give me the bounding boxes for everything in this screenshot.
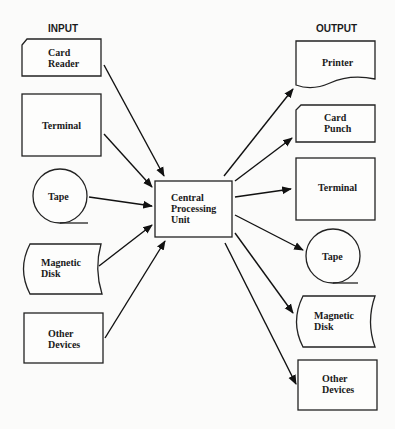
output-other-devices: Other Devices (298, 360, 377, 410)
input-other-devices: Other Devices (24, 313, 103, 363)
svg-text:Central: Central (171, 192, 204, 203)
svg-text:Punch: Punch (324, 123, 352, 134)
arrow-card-reader-to-cpu (104, 65, 164, 176)
output-card-punch: Card Punch (296, 105, 375, 142)
output-arrows (224, 89, 303, 384)
svg-text:Reader: Reader (48, 58, 80, 69)
svg-text:Tape: Tape (322, 251, 343, 262)
svg-text:Devices: Devices (48, 339, 80, 350)
arrow-disk-to-cpu (99, 225, 152, 266)
input-terminal: Terminal (22, 94, 101, 156)
svg-text:Magnetic: Magnetic (314, 310, 355, 321)
svg-text:Unit: Unit (171, 214, 191, 225)
input-card-reader: Card Reader (22, 39, 101, 76)
input-magnetic-disk: Magnetic Disk (24, 244, 103, 294)
svg-text:Printer: Printer (322, 57, 354, 68)
input-tape: Tape (33, 169, 88, 223)
central-processing-unit: Central Processing Unit (155, 181, 232, 237)
svg-text:Card: Card (324, 112, 347, 123)
svg-text:Card: Card (48, 47, 71, 58)
svg-text:Other: Other (48, 328, 74, 339)
arrow-cpu-to-terminal (235, 189, 291, 197)
svg-text:Devices: Devices (322, 384, 354, 395)
io-diagram: INPUT OUTPUT Card Reader Terminal Tape M… (0, 0, 395, 429)
output-magnetic-disk: Magnetic Disk (297, 296, 376, 347)
arrow-tape-to-cpu (89, 197, 152, 206)
input-header: INPUT (48, 23, 78, 34)
svg-text:Disk: Disk (314, 321, 334, 332)
arrow-cpu-to-disk (235, 233, 293, 313)
output-printer: Printer (296, 41, 375, 88)
arrow-cpu-to-other-devices (225, 243, 296, 384)
svg-text:Terminal: Terminal (42, 120, 81, 131)
svg-text:Disk: Disk (41, 268, 61, 279)
arrow-cpu-to-tape (235, 215, 303, 250)
output-terminal: Terminal (296, 158, 375, 220)
svg-text:Terminal: Terminal (318, 182, 357, 193)
svg-text:Tape: Tape (48, 191, 69, 202)
output-header: OUTPUT (316, 23, 357, 34)
arrow-cpu-to-card-punch (235, 138, 292, 181)
output-tape: Tape (306, 229, 360, 283)
svg-text:Processing: Processing (171, 203, 216, 214)
svg-text:Magnetic: Magnetic (41, 257, 82, 268)
arrow-other-devices-to-cpu (105, 241, 165, 338)
svg-text:Other: Other (322, 373, 348, 384)
